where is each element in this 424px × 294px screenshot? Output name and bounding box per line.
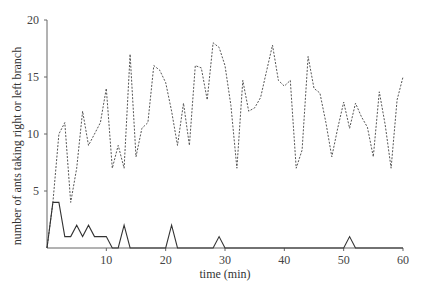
x-tick-label: 50: [329, 254, 359, 266]
series-line-solid: [47, 202, 403, 248]
x-tick-label: 30: [210, 254, 240, 266]
axes: [44, 20, 403, 251]
x-tick-label: 20: [151, 254, 181, 266]
x-axis-title: time (min): [200, 267, 251, 282]
y-axis-title: number of ants taking right or left bran…: [10, 47, 25, 245]
series-line-dashed: [47, 43, 403, 248]
y-tick-label: 20: [9, 14, 39, 26]
x-tick-label: 40: [269, 254, 299, 266]
series-group: [47, 43, 403, 248]
x-tick-label: 60: [388, 254, 418, 266]
line-chart: [0, 0, 424, 294]
x-tick-label: 10: [91, 254, 121, 266]
